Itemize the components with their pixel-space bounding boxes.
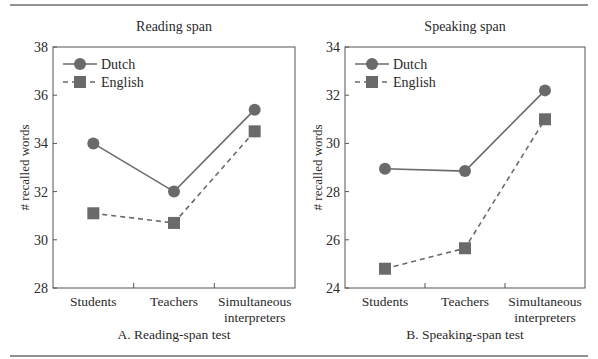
- chart-title: Speaking span: [424, 19, 505, 34]
- legend-label: English: [393, 75, 436, 90]
- y-tick-label: 38: [34, 40, 48, 55]
- legend-marker-circle: [74, 58, 86, 70]
- series-line-dutch: [93, 110, 254, 192]
- data-point-english: [249, 125, 261, 137]
- legend: DutchEnglish: [355, 57, 436, 90]
- data-point-dutch: [168, 186, 180, 198]
- data-point-dutch: [87, 137, 99, 149]
- legend-label: Dutch: [101, 57, 135, 72]
- y-tick-label: 34: [34, 136, 48, 151]
- series-dutch: [87, 104, 260, 198]
- y-tick-label: 24: [326, 281, 340, 296]
- y-tick-label: 30: [34, 233, 48, 248]
- data-point-english: [87, 207, 99, 219]
- series-line-dutch: [385, 90, 545, 171]
- chart-caption: B. Speaking-span test: [406, 327, 524, 342]
- data-point-english: [539, 113, 551, 125]
- plot-frame: [53, 47, 295, 288]
- y-tick-label: 36: [34, 88, 48, 103]
- legend: DutchEnglish: [63, 57, 144, 90]
- x-tick-label: Teachers: [441, 294, 489, 309]
- legend-marker-circle: [366, 58, 378, 70]
- y-tick-label: 32: [34, 185, 48, 200]
- legend-marker-square: [74, 76, 86, 88]
- series-line-english: [93, 131, 254, 223]
- data-point-english: [379, 263, 391, 275]
- x-tick-label: Teachers: [150, 294, 198, 309]
- data-point-english: [459, 242, 471, 254]
- y-tick-label: 28: [326, 185, 340, 200]
- y-tick-label: 32: [326, 88, 340, 103]
- data-point-dutch: [379, 163, 391, 175]
- x-tick-label: Simultaneous: [508, 294, 582, 309]
- chart-title: Reading span: [136, 19, 212, 34]
- data-point-english: [168, 217, 180, 229]
- y-axis-label: # recalled words: [310, 125, 325, 211]
- series-english: [379, 113, 551, 274]
- y-axis-label: # recalled words: [17, 125, 32, 211]
- x-tick-label: Simultaneous: [218, 294, 292, 309]
- speaking-span-chart: Speaking span242628303234# recalled word…: [310, 19, 585, 342]
- data-point-dutch: [539, 84, 551, 96]
- x-tick-label: Students: [70, 294, 117, 309]
- series-dutch: [379, 84, 551, 177]
- y-tick-label: 28: [34, 281, 48, 296]
- figure: Reading span283032343638# recalled words…: [0, 0, 598, 359]
- y-tick-label: 26: [326, 233, 340, 248]
- x-tick-label: Students: [362, 294, 409, 309]
- x-tick-label: interpreters: [514, 310, 575, 325]
- chart-caption: A. Reading-span test: [118, 327, 231, 342]
- legend-label: Dutch: [393, 57, 427, 72]
- y-tick-label: 30: [326, 136, 340, 151]
- data-point-dutch: [249, 104, 261, 116]
- data-point-dutch: [459, 165, 471, 177]
- series-english: [87, 125, 260, 229]
- legend-label: English: [101, 75, 144, 90]
- reading-span-chart: Reading span283032343638# recalled words…: [17, 19, 295, 342]
- legend-marker-square: [366, 76, 378, 88]
- y-tick-label: 34: [326, 40, 340, 55]
- x-tick-label: interpreters: [224, 310, 285, 325]
